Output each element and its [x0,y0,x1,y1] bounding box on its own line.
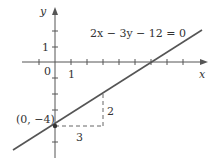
y-axis-label: y [39,5,47,18]
slope-triangle [55,94,103,126]
y-tick-label-1: 1 [42,41,49,54]
origin-label: 0 [44,65,51,78]
run-label: 3 [76,131,83,144]
y-axis [52,7,58,158]
rise-label: 2 [107,105,114,118]
y-axis-arrow-icon [52,7,58,15]
x-tick-label-1: 1 [68,68,75,81]
x-axis-arrow-icon [200,59,208,65]
line-graph-figure: y x 1 0 1 2x − 3y − 12 = 0 (0, −4) 3 2 [0,0,221,165]
point-label: (0, −4) [16,113,55,126]
equation-label: 2x − 3y − 12 = 0 [90,27,186,40]
x-axis-label: x [199,68,206,81]
